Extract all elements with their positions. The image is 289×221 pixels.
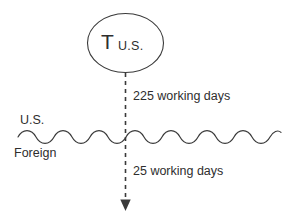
node-main-label: T: [101, 31, 114, 52]
diagram-vector-layer: [0, 0, 289, 221]
boundary-below-label: Foreign: [14, 147, 56, 160]
boundary-above-label: U.S.: [20, 114, 44, 127]
flow-arrowhead-icon: [120, 200, 130, 212]
upper-duration-label: 225 working days: [133, 90, 230, 103]
diagram-canvas: T U.S. 225 working days 25 working days …: [0, 0, 289, 221]
boundary-wavy-line: [18, 131, 281, 144]
node-subscript-label: U.S.: [118, 40, 144, 53]
lower-duration-label: 25 working days: [133, 165, 223, 178]
